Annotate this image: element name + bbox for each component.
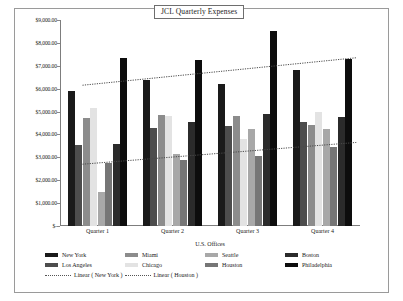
bar bbox=[90, 108, 97, 226]
legend-swatch-icon bbox=[125, 253, 138, 257]
legend-row: Los AngelesChicagoHoustonPhiladelphia bbox=[45, 262, 365, 268]
legend-item[interactable]: Houston bbox=[205, 262, 285, 268]
bar bbox=[255, 156, 262, 226]
bar bbox=[308, 125, 315, 226]
legend-item[interactable]: Boston bbox=[285, 252, 365, 258]
legend-item[interactable]: Miami bbox=[125, 252, 205, 258]
x-tick-label: Quarter 4 bbox=[311, 228, 334, 234]
bar bbox=[270, 31, 277, 226]
bar bbox=[323, 129, 330, 226]
legend-trendline-icon bbox=[45, 275, 71, 276]
legend-trendline-icon bbox=[125, 275, 151, 276]
y-tick-mark bbox=[57, 89, 60, 90]
chart-screenshot: JCL Quarterly Expenses $-$1,000.00$2,000… bbox=[0, 0, 403, 301]
legend-label: Boston bbox=[302, 252, 319, 258]
legend-item[interactable]: New York bbox=[45, 252, 125, 258]
bar bbox=[195, 60, 202, 226]
bar bbox=[218, 84, 225, 226]
legend-swatch-icon bbox=[285, 253, 298, 257]
chart-legend: New YorkMiamiSeattleBostonLos AngelesChi… bbox=[45, 252, 365, 282]
y-tick-mark bbox=[57, 134, 60, 135]
bar bbox=[143, 80, 150, 226]
x-tick-label: Quarter 3 bbox=[236, 228, 259, 234]
bar bbox=[233, 116, 240, 226]
bar bbox=[293, 70, 300, 226]
bar bbox=[188, 122, 195, 226]
bar bbox=[300, 122, 307, 226]
legend-item-trendline[interactable]: Linear ( New York ) bbox=[45, 272, 123, 278]
x-axis-title: U.S. Offices bbox=[60, 241, 360, 247]
bar bbox=[113, 144, 120, 226]
y-tick-mark bbox=[57, 66, 60, 67]
y-tick-mark bbox=[57, 157, 60, 158]
bar bbox=[315, 112, 322, 226]
bar bbox=[98, 192, 105, 226]
y-tick-mark bbox=[57, 180, 60, 181]
y-tick-mark bbox=[57, 226, 60, 227]
y-tick-label: $6,000.00 bbox=[0, 86, 57, 92]
y-tick-mark bbox=[57, 203, 60, 204]
legend-swatch-icon bbox=[285, 263, 298, 267]
legend-label: Miami bbox=[142, 252, 158, 258]
legend-row: New YorkMiamiSeattleBoston bbox=[45, 252, 365, 258]
bar bbox=[180, 160, 187, 226]
legend-swatch-icon bbox=[45, 263, 58, 267]
legend-swatch-icon bbox=[125, 263, 138, 267]
plot-area: $-$1,000.00$2,000.00$3,000.00$4,000.00$5… bbox=[60, 20, 360, 226]
y-tick-mark bbox=[57, 43, 60, 44]
y-tick-label: $1,000.00 bbox=[0, 200, 57, 206]
bar bbox=[120, 58, 127, 226]
x-tick-label: Quarter 1 bbox=[86, 228, 109, 234]
legend-label: Philadelphia bbox=[302, 262, 332, 268]
legend-item[interactable]: Chicago bbox=[125, 262, 205, 268]
bar bbox=[248, 129, 255, 226]
legend-label: Los Angeles bbox=[62, 262, 92, 268]
y-tick-label: $9,000.00 bbox=[0, 17, 57, 23]
legend-item[interactable]: Los Angeles bbox=[45, 262, 125, 268]
legend-label: Linear ( Houston ) bbox=[154, 272, 199, 278]
y-tick-label: $3,000.00 bbox=[0, 154, 57, 160]
legend-item[interactable]: Philadelphia bbox=[285, 262, 365, 268]
chart-title: JCL Quarterly Expenses bbox=[154, 5, 244, 19]
bar bbox=[338, 117, 345, 226]
bar bbox=[158, 115, 165, 226]
bar bbox=[330, 147, 337, 226]
y-tick-label: $2,000.00 bbox=[0, 177, 57, 183]
y-tick-label: $7,000.00 bbox=[0, 63, 57, 69]
legend-swatch-icon bbox=[45, 253, 58, 257]
bar bbox=[75, 145, 82, 226]
bar bbox=[105, 163, 112, 226]
bar bbox=[83, 118, 90, 226]
bar bbox=[165, 116, 172, 226]
bar bbox=[68, 91, 75, 226]
bar bbox=[345, 59, 352, 226]
y-tick-mark bbox=[57, 20, 60, 21]
y-tick-label: $- bbox=[0, 223, 57, 229]
legend-item-trendline[interactable]: Linear ( Houston ) bbox=[125, 272, 199, 278]
bar bbox=[150, 128, 157, 226]
x-tick-label: Quarter 2 bbox=[161, 228, 184, 234]
legend-label: New York bbox=[62, 252, 86, 258]
bar bbox=[240, 139, 247, 226]
legend-item[interactable]: Seattle bbox=[205, 252, 285, 258]
legend-swatch-icon bbox=[205, 253, 218, 257]
y-tick-label: $4,000.00 bbox=[0, 131, 57, 137]
legend-swatch-icon bbox=[205, 263, 218, 267]
bar bbox=[173, 154, 180, 226]
legend-label: Houston bbox=[222, 262, 242, 268]
legend-label: Seattle bbox=[222, 252, 238, 258]
legend-label: Chicago bbox=[142, 262, 162, 268]
bar bbox=[263, 114, 270, 226]
y-tick-label: $8,000.00 bbox=[0, 40, 57, 46]
y-axis-line bbox=[60, 20, 61, 226]
y-tick-label: $5,000.00 bbox=[0, 109, 57, 115]
bar bbox=[225, 126, 232, 226]
legend-label: Linear ( New York ) bbox=[74, 272, 123, 278]
y-tick-mark bbox=[57, 112, 60, 113]
legend-row-trendlines: Linear ( New York )Linear ( Houston ) bbox=[45, 272, 365, 278]
